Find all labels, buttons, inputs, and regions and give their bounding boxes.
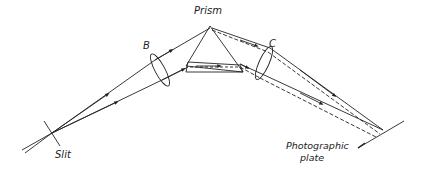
lens-c-label: C bbox=[269, 39, 276, 49]
spectrograph-diagram bbox=[0, 0, 431, 173]
lens-b-label: B bbox=[143, 41, 150, 51]
plate-label-line1: Photographic bbox=[286, 141, 349, 151]
plate-label-line2: plate bbox=[300, 153, 324, 163]
prism-label: Prism bbox=[194, 6, 222, 16]
slit-label: Slit bbox=[55, 150, 71, 160]
photographic-plate bbox=[358, 121, 404, 148]
